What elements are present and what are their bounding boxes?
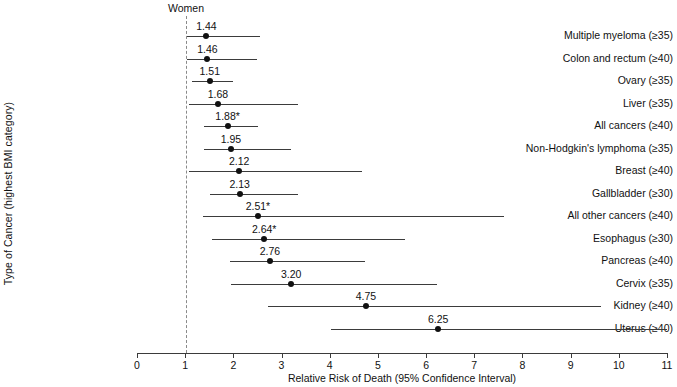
row-category-label: Non-Hodgkin's lymphoma (≥35) [493,143,677,154]
point-estimate-value-label: 6.25 [428,314,448,325]
confidence-interval-line [212,239,405,240]
point-estimate-marker [237,191,243,197]
x-axis-tick-label: 0 [134,359,140,371]
point-estimate-marker [261,236,267,242]
x-axis-tick-label: 3 [279,359,285,371]
x-axis-tick-label: 6 [423,359,429,371]
point-estimate-value-label: 1.88* [215,111,240,122]
confidence-interval-line [187,36,260,37]
point-estimate-marker [225,123,231,129]
row-category-label: All other cancers (≥40) [493,210,677,221]
confidence-interval-line [189,104,299,105]
point-estimate-value-label: 2.13 [229,179,249,190]
point-estimate-marker [255,213,261,219]
row-category-label: Ovary (≥35) [493,75,677,86]
point-estimate-marker [267,258,273,264]
x-axis-tick-label: 10 [613,359,625,371]
point-estimate-value-label: 1.95 [221,134,241,145]
confidence-interval-line [210,194,298,195]
x-axis-tick-label: 8 [520,359,526,371]
x-axis-tick-label: 11 [662,359,673,371]
x-axis-tick-label: 9 [568,359,574,371]
plot-area: 01234567891011Multiple myeloma (≥35)1.44… [0,0,677,387]
confidence-interval-line [230,261,365,262]
row-category-label: Pancreas (≥40) [493,255,677,266]
point-estimate-value-label: 1.68 [208,89,228,100]
confidence-interval-line [187,59,257,60]
point-estimate-marker [207,78,213,84]
row-category-label: Breast (≥40) [493,165,677,176]
confidence-interval-line [231,284,437,285]
point-estimate-value-label: 2.76 [260,246,280,257]
row-category-label: Colon and rectum (≥40) [493,53,677,64]
point-estimate-value-label: 4.75 [356,291,376,302]
row-category-label: All cancers (≥40) [493,120,677,131]
point-estimate-value-label: 3.20 [281,269,301,280]
x-axis-tick-label: 2 [230,359,236,371]
x-axis-tick-label: 4 [327,359,333,371]
point-estimate-marker [215,101,221,107]
point-estimate-value-label: 1.51 [200,66,220,77]
row-category-label: Esophagus (≥30) [493,233,677,244]
confidence-interval-line [204,126,258,127]
confidence-interval-line [204,149,291,150]
row-category-label: Liver (≥35) [493,98,677,109]
point-estimate-marker [288,281,294,287]
point-estimate-value-label: 2.64* [252,224,277,235]
forest-plot-figure: Type of Cancer (highest BMI category) Wo… [0,0,677,387]
point-estimate-marker [236,168,242,174]
row-category-label: Multiple myeloma (≥35) [493,30,677,41]
reference-line [186,16,187,353]
row-category-label: Gallbladder (≥30) [493,188,677,199]
point-estimate-marker [228,146,234,152]
row-category-label: Cervix (≥35) [493,278,677,289]
point-estimate-value-label: 1.46 [197,44,217,55]
point-estimate-marker [363,303,369,309]
x-axis-tick [667,353,668,358]
point-estimate-marker [435,326,441,332]
confidence-interval-line [268,306,600,307]
confidence-interval-line [203,216,504,217]
point-estimate-marker [204,56,210,62]
x-axis-line [137,353,667,354]
confidence-interval-line [331,329,667,330]
point-estimate-value-label: 1.44 [196,21,216,32]
x-axis-title: Relative Risk of Death (95% Confidence I… [137,372,667,384]
x-axis-tick-label: 5 [375,359,381,371]
point-estimate-value-label: 2.12 [229,156,249,167]
point-estimate-value-label: 2.51* [246,201,271,212]
confidence-interval-line [189,171,361,172]
x-axis-tick-label: 7 [471,359,477,371]
point-estimate-marker [203,33,209,39]
x-axis-tick-label: 1 [182,359,188,371]
